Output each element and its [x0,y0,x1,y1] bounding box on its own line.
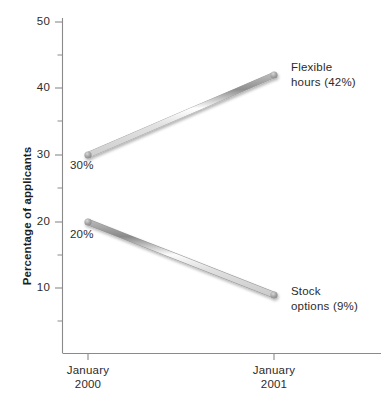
xtick-label-line2: 2000 [43,377,133,391]
series-label-line1: Flexible [291,60,356,75]
line-chart: 50 40 30 20 10 Percentage of applicants … [0,0,381,397]
x-axis [63,354,381,361]
y-axis-title: Percentage of applicants [21,126,33,306]
series-label-flexible-hours: Flexible hours (42%) [291,60,356,90]
annotation-stock-start: 20% [70,228,94,240]
xtick-label-january-2000: January 2000 [43,363,133,391]
data-point-stock-2001 [270,291,277,298]
ytick-label-50: 50 [24,15,50,27]
xtick-label-line2: 2001 [229,377,319,391]
series-label-stock-options: Stock options (9%) [291,284,358,314]
xtick-label-line1: January [43,363,133,377]
series-label-line2: hours (42%) [291,75,356,90]
series-label-line1: Stock [291,284,358,299]
series-stock-options [84,218,277,298]
xtick-label-line1: January [229,363,319,377]
xtick-label-january-2001: January 2001 [229,363,319,391]
data-point-stock-2000 [84,218,91,225]
y-axis [55,18,63,353]
series-label-line2: options (9%) [291,299,358,314]
annotation-flexible-start: 30% [70,159,94,171]
series-flexible-hours [84,71,277,158]
data-point-flexible-2000 [84,151,91,158]
data-point-flexible-2001 [270,71,277,78]
ytick-label-40: 40 [24,81,50,93]
